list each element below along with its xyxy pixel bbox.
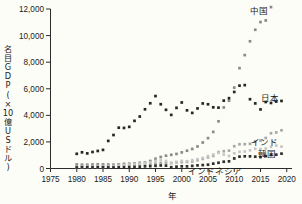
series-label-インドネシア: インドネシア bbox=[188, 166, 242, 176]
data-point bbox=[212, 106, 215, 109]
data-point bbox=[254, 155, 257, 158]
data-point bbox=[191, 148, 194, 151]
data-point bbox=[280, 100, 283, 103]
data-point bbox=[217, 161, 220, 164]
data-point bbox=[154, 160, 157, 163]
data-point bbox=[280, 145, 283, 148]
data-point bbox=[217, 152, 220, 155]
data-point bbox=[270, 132, 273, 135]
data-point bbox=[91, 151, 94, 154]
series-インド bbox=[75, 129, 282, 167]
data-point bbox=[75, 166, 78, 169]
data-point bbox=[133, 120, 136, 123]
data-point bbox=[228, 97, 231, 100]
data-point bbox=[222, 99, 225, 102]
data-point bbox=[149, 165, 152, 168]
x-tick-label: 2005 bbox=[199, 175, 218, 184]
data-point bbox=[165, 160, 168, 163]
data-point bbox=[254, 28, 257, 31]
x-tick-label: 1980 bbox=[68, 175, 87, 184]
data-point bbox=[180, 165, 183, 168]
data-point bbox=[233, 157, 236, 160]
data-point bbox=[233, 152, 236, 155]
data-point bbox=[201, 102, 204, 105]
data-point bbox=[138, 162, 141, 165]
x-tick-label: 2015 bbox=[251, 175, 270, 184]
data-point bbox=[233, 91, 236, 94]
data-point bbox=[117, 126, 120, 129]
data-point bbox=[259, 108, 262, 111]
data-point bbox=[201, 141, 204, 144]
data-point bbox=[228, 155, 231, 158]
data-point bbox=[159, 156, 162, 159]
data-point bbox=[154, 95, 157, 98]
data-point bbox=[159, 162, 162, 165]
x-tick-label: 2020 bbox=[278, 175, 297, 184]
data-point bbox=[128, 166, 131, 169]
data-point bbox=[264, 19, 267, 22]
x-tick-label: 1985 bbox=[94, 175, 113, 184]
data-point bbox=[228, 149, 231, 152]
data-point bbox=[133, 166, 136, 169]
data-point bbox=[222, 160, 225, 163]
data-point bbox=[280, 152, 283, 155]
data-point bbox=[102, 166, 105, 169]
data-point bbox=[275, 131, 278, 134]
y-tick-label: 12,000 bbox=[19, 5, 44, 14]
data-point bbox=[180, 159, 183, 162]
data-point bbox=[238, 67, 241, 70]
data-point bbox=[86, 152, 89, 155]
data-point bbox=[138, 165, 141, 168]
chart-canvas: 名目GDP(×10億USドル) 12,00010,0008,0006,0004,… bbox=[0, 0, 302, 204]
data-point bbox=[144, 108, 147, 111]
y-tick-label: 0 bbox=[39, 165, 44, 174]
data-point bbox=[112, 134, 115, 137]
data-point bbox=[117, 166, 120, 169]
data-point bbox=[222, 150, 225, 153]
data-point bbox=[159, 159, 162, 162]
data-point bbox=[175, 153, 178, 156]
data-point bbox=[249, 155, 252, 158]
data-point bbox=[212, 131, 215, 134]
series-インドネシア bbox=[75, 152, 282, 169]
data-point bbox=[196, 158, 199, 161]
data-point bbox=[75, 152, 78, 155]
gdp-scatter-chart: 名目GDP(×10億USドル) 12,00010,0008,0006,0004,… bbox=[0, 0, 302, 204]
data-point bbox=[233, 145, 236, 148]
x-tick-label: 2000 bbox=[173, 175, 192, 184]
data-point bbox=[207, 103, 210, 106]
x-tick-label: 2010 bbox=[225, 175, 244, 184]
y-tick-label: 6,000 bbox=[24, 85, 45, 94]
series-韓国 bbox=[75, 144, 282, 169]
data-point bbox=[91, 166, 94, 169]
data-point bbox=[128, 163, 131, 166]
y-axis-title: 名目GDP(×10億USドル) bbox=[3, 44, 13, 172]
data-point bbox=[217, 120, 220, 123]
y-tick-label: 8,000 bbox=[24, 58, 45, 67]
data-point bbox=[154, 164, 157, 167]
data-point bbox=[170, 166, 173, 169]
data-point bbox=[175, 161, 178, 164]
data-point bbox=[222, 153, 225, 156]
series-label-中国: 中国 bbox=[250, 6, 268, 16]
x-axis-title: 年 bbox=[168, 191, 177, 201]
data-point bbox=[249, 149, 252, 152]
data-point bbox=[280, 129, 283, 132]
data-point bbox=[165, 154, 168, 157]
data-point bbox=[217, 106, 220, 109]
data-point bbox=[170, 114, 173, 117]
data-point bbox=[112, 166, 115, 169]
data-point bbox=[128, 126, 131, 129]
data-point bbox=[243, 150, 246, 153]
data-point bbox=[243, 54, 246, 57]
data-point bbox=[186, 160, 189, 163]
data-point bbox=[138, 115, 141, 118]
data-point bbox=[96, 166, 99, 169]
data-point bbox=[238, 155, 241, 158]
x-tick-label: 1995 bbox=[146, 175, 165, 184]
data-point bbox=[144, 162, 147, 165]
data-point bbox=[212, 153, 215, 156]
data-point bbox=[81, 166, 84, 169]
data-point bbox=[175, 165, 178, 168]
y-tick-label: 4,000 bbox=[24, 111, 45, 120]
